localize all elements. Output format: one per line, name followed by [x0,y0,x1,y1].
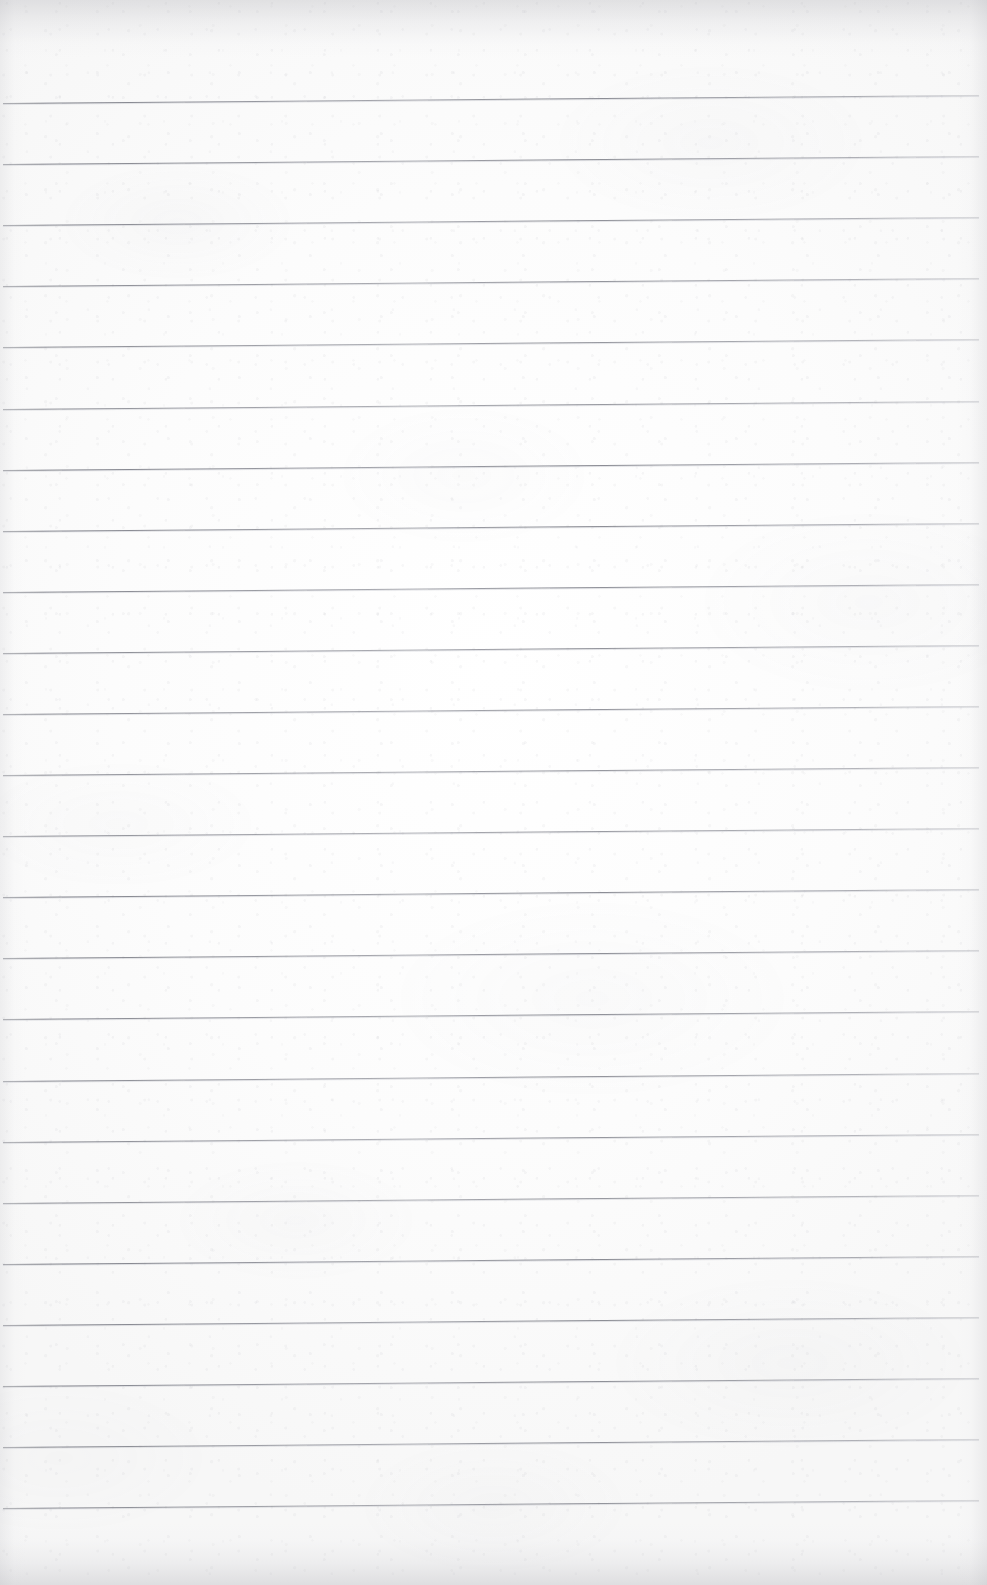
rule-line [3,339,979,348]
rule-line [3,584,979,593]
rule-line [3,1500,979,1509]
ruled-lines-layer [0,0,987,1585]
scanned-notebook-page [0,0,987,1585]
rule-line [3,767,979,776]
rule-line [3,1134,979,1143]
rule-line [3,523,979,532]
rule-line [3,1439,979,1448]
rule-line [3,95,979,104]
paper-blotch-texture [0,0,987,1585]
scan-shadow-bottom [0,1523,987,1585]
rule-line [3,828,979,837]
rule-line [3,278,979,287]
rule-line [3,1011,979,1020]
scan-shadow-left [0,0,26,1585]
rule-line [3,706,979,715]
rule-line [3,1378,979,1387]
rule-line [3,950,979,959]
rule-line [3,217,979,226]
rule-line [3,1256,979,1265]
rule-line [3,1195,979,1204]
paper-grain-texture [0,0,987,1585]
rule-line [3,1073,979,1082]
scan-shadow-top [0,0,987,58]
rule-line [3,889,979,898]
rule-line [3,401,979,410]
rule-line [3,645,979,654]
scan-shadow-right [957,0,987,1585]
rule-line [3,156,979,165]
rule-line [3,1317,979,1326]
rule-line [3,462,979,471]
